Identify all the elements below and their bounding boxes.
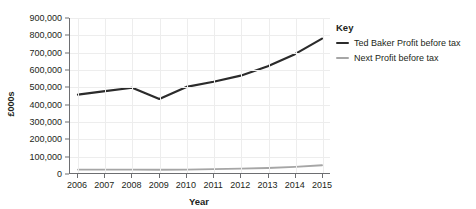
x-axis-ticks: Year 20062007200820092010201120122013201… <box>69 174 330 208</box>
legend-swatch-icon <box>336 42 349 45</box>
x-tick-mark <box>159 174 160 178</box>
gridline-horizontal <box>70 122 330 123</box>
gridline-vertical <box>296 18 297 173</box>
y-tick-label: 300,000 <box>29 117 62 127</box>
gridline-vertical <box>187 18 188 173</box>
legend-title: Key <box>336 22 476 33</box>
legend-item: Ted Baker Profit before tax <box>336 38 476 48</box>
x-tick-label: 2007 <box>94 180 114 190</box>
x-tick-label: 2009 <box>149 180 169 190</box>
y-tick-label: 0 <box>57 169 62 179</box>
gridline-horizontal <box>70 87 330 88</box>
legend-swatch-icon <box>336 57 349 59</box>
legend-item: Next Profit before tax <box>336 53 476 63</box>
x-tick-mark <box>295 174 296 178</box>
y-tick-label: 700,000 <box>29 48 62 58</box>
gridline-vertical <box>105 18 106 173</box>
x-tick-label: 2011 <box>203 180 222 190</box>
y-tick-label: 900,000 <box>29 13 62 23</box>
y-tick-label: 800,000 <box>29 30 62 40</box>
gridline-horizontal <box>70 70 330 71</box>
y-tick-label: 400,000 <box>29 100 62 110</box>
x-tick-mark <box>131 174 132 178</box>
gridline-horizontal <box>70 18 330 19</box>
series-line <box>78 165 322 169</box>
gridline-horizontal <box>70 157 330 158</box>
x-tick-label: 2010 <box>176 180 196 190</box>
x-tick-mark <box>213 174 214 178</box>
gridline-vertical <box>132 18 133 173</box>
x-tick-label: 2012 <box>230 180 250 190</box>
series-lines <box>70 18 330 173</box>
gridline-horizontal <box>70 53 330 54</box>
gridline-horizontal <box>70 139 330 140</box>
series-line <box>78 39 322 99</box>
x-tick-label: 2014 <box>285 180 305 190</box>
x-tick-mark <box>240 174 241 178</box>
y-tick-label: 100,000 <box>29 152 62 162</box>
gridline-vertical <box>214 18 215 173</box>
x-tick-label: 2015 <box>312 180 332 190</box>
y-tick-label: 500,000 <box>29 82 62 92</box>
gridline-vertical <box>323 18 324 173</box>
x-tick-label: 2008 <box>121 180 141 190</box>
gridline-vertical <box>269 18 270 173</box>
gridline-vertical <box>241 18 242 173</box>
x-tick-mark <box>186 174 187 178</box>
y-tick-label: 200,000 <box>29 134 62 144</box>
gridline-horizontal <box>70 35 330 36</box>
x-tick-mark <box>104 174 105 178</box>
line-chart: £000s 0100,000200,000300,000400,000500,0… <box>0 0 476 209</box>
x-tick-mark <box>77 174 78 178</box>
legend-label: Next Profit before tax <box>354 53 439 63</box>
x-tick-mark <box>322 174 323 178</box>
gridline-horizontal <box>70 105 330 106</box>
y-tick-label: 600,000 <box>29 65 62 75</box>
gridline-vertical <box>160 18 161 173</box>
y-axis-ticks: 0100,000200,000300,000400,000500,000600,… <box>0 0 68 209</box>
legend-label: Ted Baker Profit before tax <box>354 38 461 48</box>
x-tick-label: 2006 <box>67 180 87 190</box>
plot-area <box>69 18 330 174</box>
x-tick-label: 2013 <box>258 180 278 190</box>
x-tick-mark <box>268 174 269 178</box>
chart-legend: Key Ted Baker Profit before taxNext Prof… <box>336 22 476 68</box>
gridline-vertical <box>78 18 79 173</box>
x-axis-title: Year <box>189 196 209 207</box>
